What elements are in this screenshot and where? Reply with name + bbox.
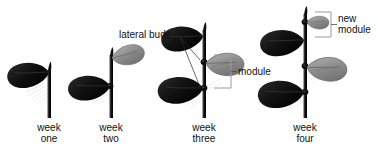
leaf-week-two-mature-1: [66, 72, 112, 104]
lateral-buds-label: lateral buds: [119, 29, 171, 41]
apical-tip-week-three: [203, 22, 206, 31]
caption-week-three-line1: week: [172, 122, 236, 134]
leaf-week-three-mature-1: [156, 73, 205, 107]
plant-week-four: [256, 6, 349, 118]
leaf-week-two-young-1: [111, 43, 146, 66]
module-label: module: [238, 66, 271, 78]
caption-week-one-line2: one: [17, 133, 81, 145]
leaf-week-four-mature-2: [256, 76, 306, 111]
leaf-week-four-young-new: [306, 15, 329, 31]
apical-tip-week-one: [48, 62, 51, 72]
stem-week-one: [48, 70, 52, 118]
plant-week-one: [5, 58, 51, 118]
node-week-two-1: [107, 83, 114, 89]
caption-week-four-line1: week: [273, 122, 337, 134]
leaf-week-four-mature-3: [258, 25, 307, 60]
apical-tip-week-two: [110, 47, 113, 56]
caption-week-three-line2: three: [172, 133, 236, 145]
plant-growth-diagram: lateral buds module new module week one …: [0, 0, 378, 160]
node-week-three-lower: [201, 85, 208, 91]
caption-week-one-line1: week: [17, 122, 81, 134]
new-module-label-line1: new: [338, 13, 356, 25]
apical-tip-week-four: [304, 6, 307, 15]
new-module-label-line2: module: [338, 24, 371, 36]
stem-week-three: [203, 30, 207, 118]
caption-week-two-line2: two: [79, 133, 143, 145]
caption-week-four-line2: four: [273, 133, 337, 145]
node-week-four-low: [302, 89, 309, 95]
caption-week-two-line1: week: [79, 122, 143, 134]
plant-week-two: [66, 43, 145, 118]
